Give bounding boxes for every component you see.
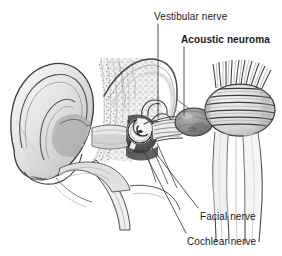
external-auditory-canal [92,125,128,149]
label-cochlear-nerve: Cochlear nerve [187,236,256,247]
label-facial-nerve: Facial nerve [200,211,256,222]
anatomical-figure: Vestibular nerve Acoustic neuroma Facial… [0,0,282,256]
label-acoustic-neuroma: Acoustic neuroma [181,34,270,45]
label-vestibular-nerve: Vestibular nerve [154,11,227,22]
